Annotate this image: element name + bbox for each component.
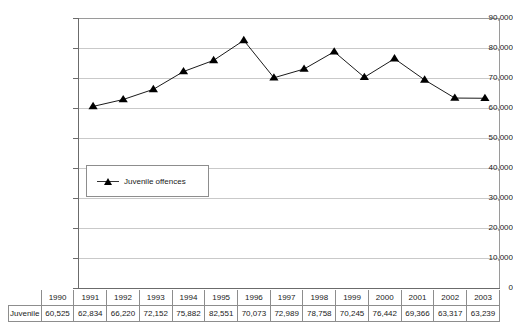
- table-column-header: 1999: [336, 290, 369, 306]
- data-point-marker: [330, 47, 339, 54]
- table-row: Juvenile offences 60,52562,83466,22072,1…: [9, 306, 500, 322]
- table-column-header: 2003: [467, 290, 500, 306]
- data-point-marker: [239, 36, 248, 43]
- table-corner-cell: [9, 290, 42, 306]
- table-column-header: 1994: [172, 290, 205, 306]
- legend-label: Juvenile offences: [124, 177, 186, 186]
- table-column-header: 1997: [270, 290, 303, 306]
- table-column-header: 1996: [238, 290, 271, 306]
- table-cell: 60,525: [41, 306, 74, 322]
- data-point-marker: [209, 56, 218, 63]
- series-line: [93, 40, 485, 106]
- data-point-marker: [360, 73, 369, 80]
- data-table: 1990199119921993199419951996199719981999…: [8, 290, 500, 322]
- triangle-marker-icon: [97, 177, 119, 186]
- table-cell: 72,989: [270, 306, 303, 322]
- data-point-marker: [299, 64, 308, 71]
- data-point-marker: [450, 93, 459, 100]
- juvenile-offences-figure: 90,00080,00070,00060,00050,00040,00030,0…: [0, 0, 513, 329]
- table-column-header: 2001: [401, 290, 434, 306]
- table-cell: 78,758: [303, 306, 336, 322]
- table-row-label: Juvenile offences: [9, 306, 42, 322]
- table-column-header: 1990: [41, 290, 74, 306]
- table-column-header: 1995: [205, 290, 238, 306]
- table-cell: 76,442: [368, 306, 401, 322]
- data-point-marker: [420, 75, 429, 82]
- data-point-marker: [480, 94, 489, 101]
- table-column-header: 1998: [303, 290, 336, 306]
- series-plot: [0, 0, 513, 290]
- table-cell: 75,882: [172, 306, 205, 322]
- table-header-row: 1990199119921993199419951996199719981999…: [9, 290, 500, 306]
- table-column-header: 1991: [74, 290, 107, 306]
- table-cell: 72,152: [139, 306, 172, 322]
- data-point-marker: [149, 85, 158, 92]
- table-cell: 62,834: [74, 306, 107, 322]
- table-cell: 70,245: [336, 306, 369, 322]
- table-column-header: 2002: [434, 290, 467, 306]
- table-column-header: 2000: [368, 290, 401, 306]
- table-column-header: 1992: [107, 290, 140, 306]
- chart-legend: Juvenile offences: [86, 165, 209, 197]
- table-cell: 70,073: [238, 306, 271, 322]
- table-column-header: 1993: [139, 290, 172, 306]
- table-cell: 82,551: [205, 306, 238, 322]
- line-chart: 90,00080,00070,00060,00050,00040,00030,0…: [0, 0, 513, 290]
- table-cell: 63,317: [434, 306, 467, 322]
- data-point-marker: [390, 54, 399, 61]
- table-cell: 69,366: [401, 306, 434, 322]
- table-cell: 66,220: [107, 306, 140, 322]
- table-cell: 63,239: [467, 306, 500, 322]
- legend-entry-juvenile-offences: Juvenile offences: [97, 177, 186, 186]
